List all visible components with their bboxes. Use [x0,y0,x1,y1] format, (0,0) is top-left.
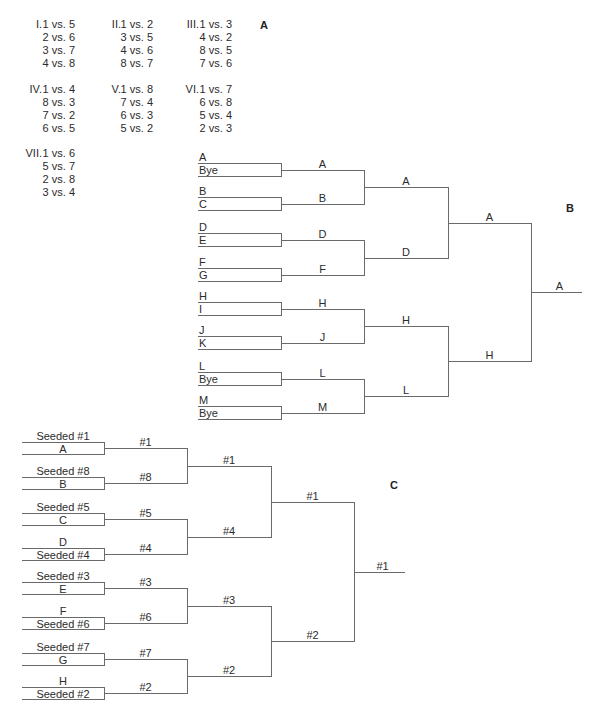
round2-line [104,554,187,555]
round-numeral: III. [187,18,199,31]
entry-name-top: J [199,324,205,336]
match-pairing: 6 vs. 8 [200,96,232,109]
match-pairing: 8 vs. 5 [200,44,232,57]
round3-winner: #1 [209,454,249,466]
entry-name-bottom: E [199,234,206,246]
round2-winner: #3 [126,576,166,588]
entry-name-top: Seeded #3 [22,570,104,582]
match-pairing: 1 vs. 3 [200,18,232,31]
round-numeral: IV. [30,83,42,96]
round3-line [187,537,271,538]
round3-line [364,258,448,259]
match-pairing: 1 vs. 4 [43,83,75,96]
entry-line-bottom [198,315,281,316]
entry-line-top [198,302,281,303]
entry-name-bottom: G [22,654,104,666]
round3-winner: #4 [209,525,249,537]
round4-winner: A [470,211,510,223]
panel-label-c: C [390,479,398,491]
round2-winner: L [303,367,343,379]
round4-winner: #1 [293,490,333,502]
entry-name-bottom: G [199,269,208,281]
entry-name-bottom: C [199,198,207,210]
round2-line [281,343,364,344]
entry-name-top: F [199,256,206,268]
entry-name-bottom: A [22,443,104,455]
entry-name-top: A [199,151,206,163]
round3-winner: D [386,246,426,258]
entry-name-top: Seeded #8 [22,465,104,477]
round-numeral: I. [36,18,42,31]
entry-name-bottom: Bye [199,373,218,385]
entry-name-top: D [199,221,207,233]
entry-name-bottom: C [22,514,104,526]
round4-line [271,502,354,503]
entry-line-bottom [198,246,281,247]
entry-name-bottom: Seeded #2 [22,688,104,700]
round2-line [281,379,364,380]
round2-line [104,483,187,484]
round2-line [281,275,364,276]
round2-winner: #2 [126,681,166,693]
match-pairing: 2 vs. 8 [43,173,75,186]
entry-name-top: H [22,675,104,687]
round-numeral: VII. [25,147,42,160]
match-pairing: 1 vs. 6 [43,147,75,160]
entry-line-bottom [198,281,281,282]
entry-name-top: H [199,290,207,302]
round3-winner: A [386,175,426,187]
round2-line [104,659,187,660]
match-pairing: 1 vs. 8 [121,83,153,96]
entry-line-bottom [198,349,281,350]
entry-line-bottom [198,176,281,177]
round2-winner: #6 [126,611,166,623]
entry-name-top: M [199,394,208,406]
match-pairing: 1 vs. 7 [200,83,232,96]
match-pairing: 4 vs. 8 [43,57,75,70]
champion-label: A [540,280,580,292]
round3-winner: #3 [209,594,249,606]
round2-line [281,204,364,205]
round4-line [448,223,531,224]
round2-winner: M [303,401,343,413]
round2-winner: #5 [126,507,166,519]
entry-name-bottom: K [199,337,206,349]
panel-label-b: B [566,202,574,214]
round2-line [104,448,187,449]
entry-line-top [198,197,281,198]
round2-line [104,693,187,694]
match-pairing: 8 vs. 7 [121,57,153,70]
round3-line [187,466,271,467]
match-pairing: 4 vs. 6 [121,44,153,57]
entry-name-top: D [22,536,104,548]
round3-line [364,326,448,327]
entry-name-bottom: Seeded #4 [22,549,104,561]
round2-winner: #4 [126,542,166,554]
round2-winner: B [303,192,343,204]
round2-winner: H [303,297,343,309]
match-pairing: 4 vs. 2 [200,31,232,44]
match-pairing: 1 vs. 5 [43,18,75,31]
round4-line [448,361,531,362]
match-pairing: 2 vs. 3 [200,122,232,135]
round2-line [104,623,187,624]
match-pairing: 3 vs. 7 [43,44,75,57]
round-numeral: V. [112,83,121,96]
champion-line [531,292,582,293]
round4-line [271,641,354,642]
champion-line [354,572,405,573]
round3-winner: #2 [209,664,249,676]
round-numeral: VI. [186,83,199,96]
entry-name-top: Seeded #1 [22,430,104,442]
round2-winner: #7 [126,647,166,659]
entry-line-bottom [198,419,281,420]
round2-line [281,309,364,310]
round2-winner: F [303,263,343,275]
match-pairing: 5 vs. 4 [200,109,232,122]
entry-name-bottom: Bye [199,407,218,419]
entry-line-top [198,336,281,337]
match-pairing: 1 vs. 2 [121,18,153,31]
entry-name-bottom: I [199,303,202,315]
round2-winner: A [303,158,343,170]
round2-line [104,519,187,520]
